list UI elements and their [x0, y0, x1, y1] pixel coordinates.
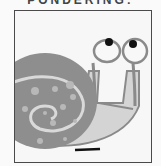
illustration-frame [14, 10, 152, 163]
left-pupil [105, 38, 113, 46]
right-pupil [129, 40, 137, 48]
ground-line [75, 149, 100, 150]
caption-text: PONDERING: [0, 0, 161, 7]
snail-illustration [15, 11, 151, 162]
